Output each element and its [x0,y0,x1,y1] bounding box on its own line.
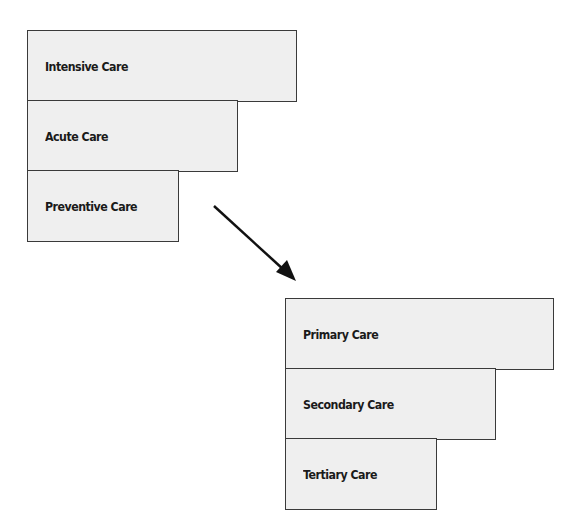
box-secondary-care: Secondary Care [285,368,496,440]
box-primary-care: Primary Care [285,298,554,370]
box-label: Secondary Care [303,397,394,412]
box-label: Tertiary Care [303,467,377,482]
box-label: Primary Care [303,327,378,342]
box-tertiary-care: Tertiary Care [285,438,437,510]
